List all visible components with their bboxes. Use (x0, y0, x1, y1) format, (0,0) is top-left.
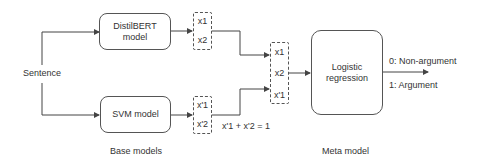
output-class-0-label: 0: Non-argument (389, 56, 457, 67)
svm-label: SVM model (112, 109, 159, 120)
output-x-prime-1: x'1 (194, 100, 211, 110)
logistic-label-line1: Logistic (326, 62, 368, 73)
svm-output-box: x'1 x'2 (193, 96, 212, 134)
distilbert-output-box: x1 x2 (193, 12, 212, 50)
svm-model-box: SVM model (100, 96, 171, 133)
output-x1: x1 (194, 16, 211, 26)
meta-feature-x-prime-1: x'1 (271, 90, 288, 100)
logistic-regression-box: Logistic regression (311, 30, 383, 115)
sentence-input-label: Sentence (18, 68, 66, 79)
meta-feature-box: x1 x2 x'1 (270, 42, 289, 104)
output-class-1-label: 1: Argument (389, 80, 438, 91)
meta-model-section-label: Meta model (322, 146, 369, 157)
distilbert-model-box: DistilBERT model (99, 13, 171, 50)
base-models-section-label: Base models (110, 146, 162, 157)
svm-constraint-label: x'1 + x'2 = 1 (222, 121, 270, 132)
distilbert-label-line1: DistilBERT (113, 21, 156, 32)
logistic-label-line2: regression (326, 73, 368, 84)
output-x2: x2 (194, 35, 211, 45)
meta-feature-x1: x1 (271, 47, 288, 57)
distilbert-label-line2: model (113, 32, 156, 43)
meta-feature-x2: x2 (271, 68, 288, 78)
output-x-prime-2: x'2 (194, 119, 211, 129)
